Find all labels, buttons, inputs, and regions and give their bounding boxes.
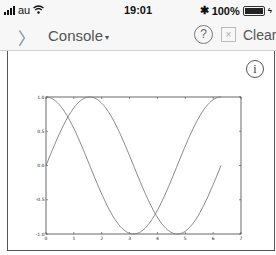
y-tick-label: 0.0 [37,163,44,168]
x-tick-label: 7 [240,236,243,241]
x-tick-label: 0 [45,236,48,241]
x-tick-label: 1 [72,236,75,241]
plot-frame [46,97,241,234]
plot-series [46,97,221,234]
x-tick-label: 4 [156,236,159,241]
y-tick-label: -1.0 [36,232,45,237]
plot-axes [46,97,241,234]
y-tick-label: 1.0 [37,95,44,100]
plot-ticks: 012345671.00.50.0-0.5-1.0 [36,95,243,241]
x-tick-label: 3 [128,236,131,241]
y-tick-label: -0.5 [36,197,45,202]
x-tick-label: 2 [100,236,103,241]
plot: 012345671.00.50.0-0.5-1.0 [0,0,276,255]
y-tick-label: 0.5 [37,129,44,134]
x-tick-label: 5 [184,236,187,241]
x-tick-label: 6 [212,236,215,241]
series-sin-line [46,97,221,234]
